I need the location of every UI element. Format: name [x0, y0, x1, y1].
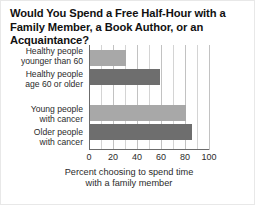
- plot-area: [89, 45, 209, 150]
- category-label-line: younger than 60: [0, 57, 83, 67]
- x-axis-title: Percent choosing to spend time with a fa…: [29, 167, 229, 189]
- chart-title: Would You Spend a Free Half-Hour with a …: [10, 7, 250, 48]
- plot-frame: [89, 45, 209, 150]
- category-label-healthy-younger: Healthy people younger than 60: [0, 47, 83, 67]
- x-axis-tick-label: 100: [194, 152, 224, 162]
- category-label-healthy-older: Healthy people age 60 or older: [0, 70, 83, 90]
- x-axis-line: [89, 149, 209, 151]
- gridline: [209, 45, 210, 150]
- x-axis-title-line-1: Percent choosing to spend time: [65, 167, 194, 177]
- category-label-older-cancer: Older people with cancer: [0, 128, 83, 148]
- chart-figure: Would You Spend a Free Half-Hour with a …: [0, 0, 255, 205]
- category-label-line: with cancer: [0, 115, 83, 125]
- category-label-line: age 60 or older: [0, 80, 83, 90]
- category-label-young-cancer: Young people with cancer: [0, 105, 83, 125]
- x-axis-title-line-2: with a family member: [29, 178, 229, 189]
- category-label-line: with cancer: [0, 138, 83, 148]
